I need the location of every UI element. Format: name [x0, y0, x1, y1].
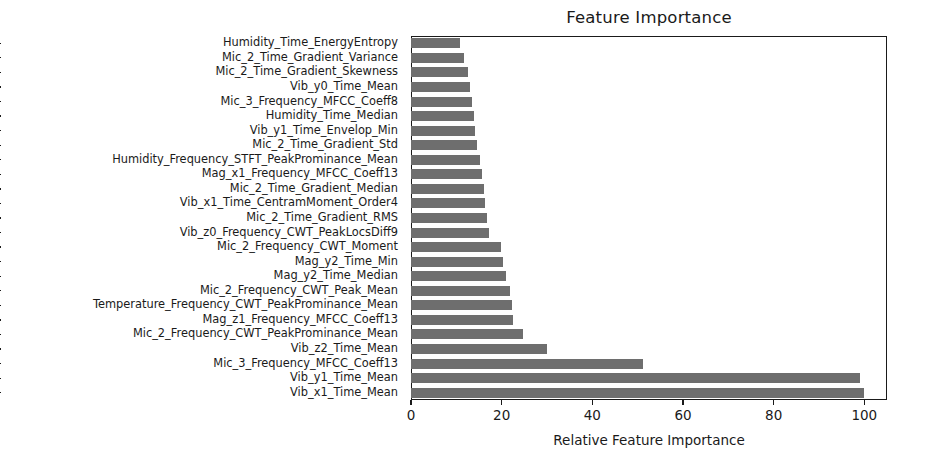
y-axis-tick-label: Mic_2_Time_Gradient_RMS [246, 212, 398, 223]
y-axis-tick-mark [0, 334, 1, 335]
bar [411, 184, 484, 194]
y-axis-tick-label: Mic_3_Frequency_MFCC_Coeff13 [213, 358, 398, 369]
y-axis-tick-mark [0, 319, 1, 320]
bar-fill [411, 315, 513, 325]
bar-fill [411, 329, 523, 339]
x-axis-tick-mark [864, 400, 865, 405]
bar [411, 126, 475, 136]
bar [411, 198, 485, 208]
y-axis-tick-label: Vib_y1_Time_Envelop_Min [250, 125, 398, 136]
x-axis-tick-mark [410, 400, 411, 405]
y-axis-tick-label: Vib_y1_Time_Mean [290, 372, 398, 383]
y-axis-tick-label: Vib_z2_Time_Mean [291, 343, 398, 354]
y-axis-tick-label: Humidity_Time_Median [266, 110, 398, 121]
y-axis-tick-label: Mag_z1_Frequency_MFCC_Coeff13 [203, 314, 398, 325]
bar [411, 53, 464, 63]
bar [411, 242, 501, 252]
y-axis-tick-mark [0, 348, 1, 349]
x-axis-title: Relative Feature Importance [411, 432, 887, 448]
bar-fill [411, 169, 482, 179]
x-axis-tick-labels: 020406080100 [411, 407, 887, 427]
bar [411, 329, 523, 339]
y-axis-tick-label: Mic_2_Time_Gradient_Std [252, 139, 398, 150]
bar [411, 228, 489, 238]
bar-fill [411, 344, 547, 354]
y-axis-tick-label: Mic_2_Frequency_CWT_Peak_Mean [200, 285, 398, 296]
y-axis-tick-labels: Humidity_Time_EnergyEntropyMic_2_Time_Gr… [0, 36, 406, 400]
x-axis-tick-label: 20 [493, 407, 510, 423]
y-axis-tick-label: Humidity_Frequency_STFT_PeakProminance_M… [112, 154, 398, 165]
x-axis-tick-label: 40 [584, 407, 601, 423]
chart-title: Feature Importance [411, 8, 887, 27]
y-axis-tick-label: Mag_y2_Time_Min [295, 256, 398, 267]
bar-fill [411, 184, 484, 194]
y-axis-tick-mark [0, 57, 1, 58]
bar-fill [411, 97, 472, 107]
x-axis-tick-label: 0 [407, 407, 416, 423]
y-axis-tick-mark [0, 232, 1, 233]
y-axis-tick-label: Mic_2_Time_Gradient_Median [230, 183, 398, 194]
bar-fill [411, 228, 489, 238]
y-axis-tick-mark [0, 217, 1, 218]
bar [411, 111, 474, 121]
bar-fill [411, 257, 503, 267]
y-axis-tick-label: Mic_2_Frequency_CWT_PeakProminance_Mean [133, 328, 398, 339]
bar-fill [411, 53, 464, 63]
bar [411, 388, 864, 398]
plot-area [411, 36, 887, 400]
y-axis-tick-mark [0, 261, 1, 262]
y-axis-tick-mark [0, 246, 1, 247]
x-axis-tick-marks [411, 400, 887, 406]
y-axis-tick-label: Mag_x1_Frequency_MFCC_Coeff13 [202, 168, 398, 179]
x-axis-tick-mark [592, 400, 593, 405]
x-axis-tick-label: 80 [765, 407, 782, 423]
y-axis-tick-label: Temperature_Frequency_CWT_PeakProminance… [93, 299, 398, 310]
y-axis-tick-mark [0, 101, 1, 102]
bar [411, 169, 482, 179]
bar-fill [411, 82, 470, 92]
y-axis-tick-mark [0, 72, 1, 73]
bar-fill [411, 359, 643, 369]
y-axis-tick-mark [0, 130, 1, 131]
bar-fill [411, 67, 468, 77]
x-axis-tick-mark [773, 400, 774, 405]
y-axis-tick-mark [0, 203, 1, 204]
x-axis-tick-mark [682, 400, 683, 405]
y-axis-tick-label: Vib_y0_Time_Mean [290, 81, 398, 92]
y-axis-tick-label: Mag_y2_Time_Median [274, 270, 398, 281]
bar-fill [411, 198, 485, 208]
y-axis-tick-label: Mic_3_Frequency_MFCC_Coeff8 [221, 96, 398, 107]
bar-fill [411, 140, 477, 150]
bar-fill [411, 300, 512, 310]
bar-fill [411, 373, 860, 383]
y-axis-tick-mark [0, 43, 1, 44]
y-axis-tick-label: Vib_x1_Time_Mean [290, 387, 398, 398]
bar [411, 315, 513, 325]
y-axis-tick-label: Mic_2_Time_Gradient_Skewness [215, 66, 398, 77]
y-axis-tick-mark [0, 392, 1, 393]
bar-fill [411, 388, 864, 398]
y-axis-tick-mark [0, 174, 1, 175]
y-axis-tick-label: Vib_z0_Frequency_CWT_PeakLocsDiff9 [180, 227, 398, 238]
y-axis-tick-mark [0, 276, 1, 277]
bar [411, 155, 480, 165]
y-axis-tick-label: Humidity_Time_EnergyEntropy [223, 37, 398, 48]
bar-fill [411, 242, 501, 252]
x-axis-tick-mark [501, 400, 502, 405]
y-axis-tick-mark [0, 378, 1, 379]
y-axis-tick-label: Mic_2_Frequency_CWT_Moment [217, 241, 398, 252]
feature-importance-chart: Feature Importance Humidity_Time_EnergyE… [0, 0, 946, 471]
bar [411, 82, 470, 92]
bar [411, 373, 860, 383]
y-axis-tick-mark [0, 145, 1, 146]
bar [411, 359, 643, 369]
x-axis-tick-label: 100 [851, 407, 877, 423]
bar [411, 300, 512, 310]
bar [411, 271, 506, 281]
y-axis-tick-mark [0, 159, 1, 160]
bar [411, 38, 460, 48]
y-axis-tick-mark [0, 290, 1, 291]
bar [411, 213, 487, 223]
bar-fill [411, 111, 474, 121]
bar [411, 67, 468, 77]
